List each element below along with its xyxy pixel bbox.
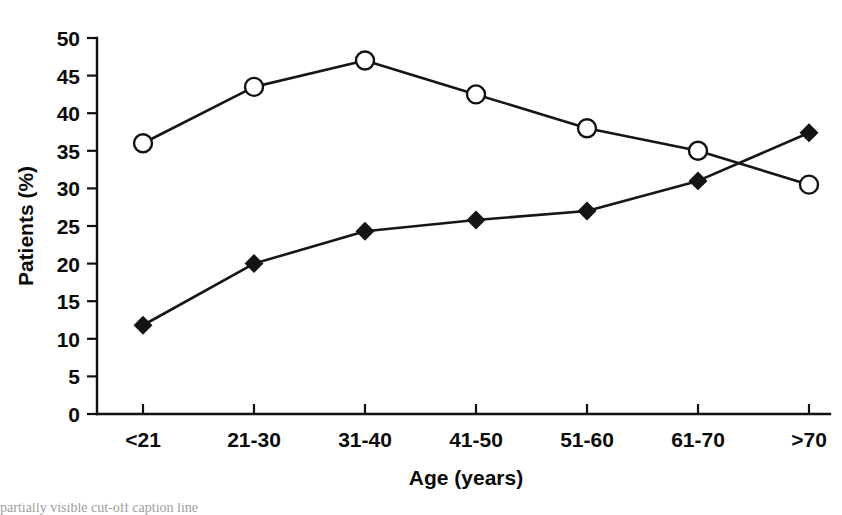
line-chart: 50 45 40 35 30 25 20 15 10 5 0 Patients …	[0, 0, 842, 503]
data-point-open-circle	[245, 78, 263, 96]
caption-strip: partially visible cut-off caption line	[0, 503, 842, 515]
y-tick-label: 15	[57, 290, 81, 313]
y-tick-label: 20	[57, 253, 80, 276]
data-point-filled-diamond	[357, 223, 374, 240]
x-tick-label: 41-50	[449, 428, 503, 451]
y-tick-label: 40	[57, 102, 80, 125]
y-axis-ticks	[87, 38, 97, 414]
caption-text: partially visible cut-off caption line	[0, 503, 842, 515]
y-tick-label: 30	[57, 177, 80, 200]
data-point-open-circle	[800, 176, 818, 194]
data-point-filled-diamond	[135, 317, 152, 334]
data-point-filled-diamond	[246, 255, 263, 272]
y-tick-label: 10	[57, 328, 80, 351]
data-point-open-circle	[467, 85, 485, 103]
y-tick-label: 5	[68, 365, 80, 388]
x-axis-title: Age (years)	[409, 466, 523, 489]
y-tick-labels: 50 45 40 35 30 25 20 15 10 5 0	[57, 27, 81, 426]
series-line-open-circle	[143, 61, 809, 185]
x-tick-label: >70	[791, 428, 827, 451]
x-tick-labels: <21 21-30 31-40 41-50 51-60 61-70 >70	[125, 428, 827, 451]
x-tick-label: 21-30	[227, 428, 281, 451]
y-tick-label: 50	[57, 27, 80, 50]
y-axis: 50 45 40 35 30 25 20 15 10 5 0 Patients …	[14, 27, 97, 426]
data-point-filled-diamond	[579, 202, 596, 219]
figure-container: 50 45 40 35 30 25 20 15 10 5 0 Patients …	[0, 0, 842, 515]
y-tick-label: 35	[57, 140, 81, 163]
x-axis: <21 21-30 31-40 41-50 51-60 61-70 >70 Ag…	[97, 404, 830, 489]
y-tick-label: 25	[57, 215, 81, 238]
y-tick-label: 0	[68, 403, 80, 426]
data-point-filled-diamond	[468, 211, 485, 228]
data-point-filled-diamond	[801, 124, 818, 141]
y-tick-label: 45	[57, 65, 81, 88]
x-tick-label: 51-60	[560, 428, 614, 451]
data-point-open-circle	[578, 119, 596, 137]
x-tick-label: 31-40	[338, 428, 392, 451]
data-point-open-circle	[134, 134, 152, 152]
x-axis-ticks	[143, 404, 809, 414]
x-tick-label: <21	[125, 428, 161, 451]
data-point-open-circle	[356, 52, 374, 70]
data-point-filled-diamond	[690, 172, 707, 189]
series-layer	[134, 52, 818, 334]
data-point-open-circle	[689, 142, 707, 160]
y-axis-title: Patients (%)	[14, 166, 37, 286]
x-tick-label: 61-70	[671, 428, 725, 451]
